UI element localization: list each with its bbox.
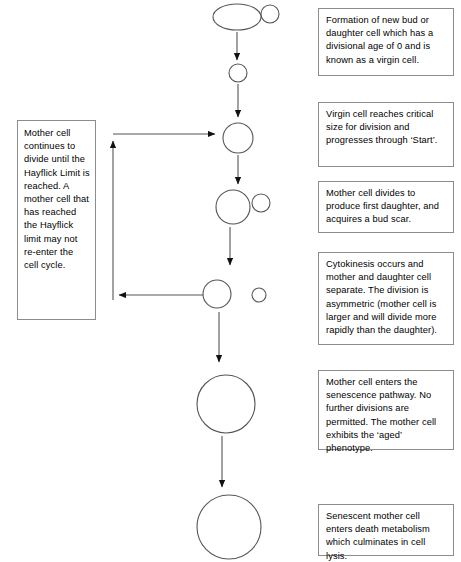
stage-budding-mother-cell — [213, 4, 279, 30]
note-bud-formation: Formation of new bud or daughter cell wh… — [318, 8, 454, 76]
mother-cell-body — [213, 4, 261, 30]
note-senescence: Mother cell enters the senescence pathwa… — [318, 370, 454, 450]
note-cell-death: Senescent mother cell enters death metab… — [318, 504, 454, 556]
stage-separated-mother-cell — [203, 280, 231, 308]
note-hayflick-limit: Mother cell continues to divide until th… — [17, 120, 96, 320]
stage-dying-mother-cell — [197, 495, 261, 559]
daughter-bud-icon — [252, 194, 270, 212]
arrow-recycle-loop — [113, 134, 215, 300]
stage-senescent-mother-cell — [197, 375, 255, 433]
note-cytokinesis: Cytokinesis occurs and mother and daught… — [318, 252, 454, 345]
bud-icon — [261, 5, 279, 23]
diagram-canvas: Formation of new bud or daughter cell wh… — [0, 0, 461, 562]
note-virgin-cell-growth: Virgin cell reaches critical size for di… — [318, 102, 454, 167]
stage-grown-virgin-cell — [223, 123, 253, 153]
stage-separated-daughter-cell — [252, 288, 266, 302]
stage-virgin-cell — [229, 64, 247, 82]
stage-dividing-mother-cell — [216, 190, 270, 224]
note-mother-cell-division: Mother cell divides to produce first dau… — [318, 181, 454, 233]
mother-cell-body — [216, 190, 250, 224]
